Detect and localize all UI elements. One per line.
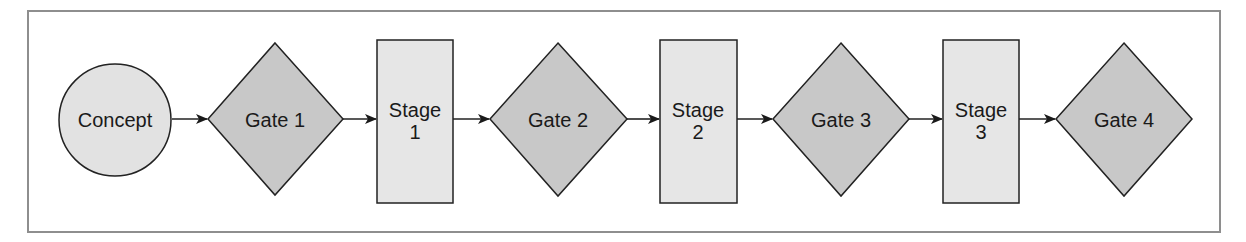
stage-1-label-line2: 1 xyxy=(409,121,420,143)
stage-2-label-line1: Stage xyxy=(672,99,724,121)
node-stage-1: Stage 1 xyxy=(377,40,453,203)
node-stage-3: Stage 3 xyxy=(943,40,1019,203)
node-concept: Concept xyxy=(59,64,171,176)
node-gate-1: Gate 1 xyxy=(208,43,343,195)
concept-label: Concept xyxy=(78,109,153,131)
gate-4-label: Gate 4 xyxy=(1094,109,1154,131)
node-gate-2: Gate 2 xyxy=(490,43,627,196)
stage-gate-diagram: Concept Gate 1 Stage 1 Gate 2 Stage 2 Ga… xyxy=(0,0,1246,242)
gate-1-label: Gate 1 xyxy=(245,109,305,131)
node-gate-4: Gate 4 xyxy=(1056,43,1192,196)
node-gate-3: Gate 3 xyxy=(773,43,909,196)
gate-2-label: Gate 2 xyxy=(528,109,588,131)
node-stage-2: Stage 2 xyxy=(660,40,737,203)
stage-3-label-line2: 3 xyxy=(975,121,986,143)
stage-3-label-line1: Stage xyxy=(955,99,1007,121)
stage-2-label-line2: 2 xyxy=(692,121,703,143)
stage-1-label-line1: Stage xyxy=(389,99,441,121)
gate-3-label: Gate 3 xyxy=(811,109,871,131)
